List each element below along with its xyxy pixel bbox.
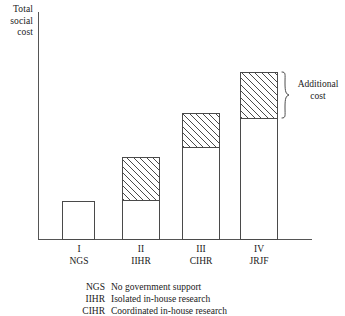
additional-cost-brace-icon — [281, 71, 290, 119]
x-tick-abbr-iii: CIHR — [175, 256, 227, 268]
bar-category-i — [62, 201, 95, 240]
legend-key-iihr: IIHR — [64, 294, 111, 306]
x-tick-roman-ii: II — [115, 244, 167, 256]
bar-category-iv — [240, 72, 278, 240]
x-tick-abbr-i: NGS — [53, 256, 105, 268]
bar-category-iii — [182, 113, 220, 240]
y-axis-label-line-2: social — [0, 16, 33, 28]
x-tick-label-ii: II IIHR — [115, 244, 167, 267]
bar-iii-additional-segment — [182, 113, 220, 148]
legend: NGS No government support IIHR Isolated … — [64, 282, 227, 316]
y-axis-label-line-1: Total — [0, 4, 33, 16]
additional-cost-annotation: Additional cost — [292, 79, 344, 102]
legend-row-ngs: NGS No government support — [64, 282, 227, 294]
bar-i-base-segment — [62, 201, 95, 240]
additional-cost-annotation-line-2: cost — [292, 91, 344, 103]
y-axis-label-line-3: cost — [0, 27, 33, 39]
additional-cost-annotation-line-1: Additional — [292, 79, 344, 91]
legend-key-cihr: CIHR — [64, 306, 111, 316]
x-tick-label-i: I NGS — [53, 244, 105, 267]
bar-ii-base-segment — [122, 200, 160, 240]
x-tick-roman-i: I — [53, 244, 105, 256]
y-axis-line — [38, 12, 39, 240]
bar-iii-base-segment — [182, 147, 220, 240]
legend-desc-ngs: No government support — [111, 282, 201, 294]
x-tick-abbr-ii: IIHR — [115, 256, 167, 268]
legend-row-iihr: IIHR Isolated in-house research — [64, 294, 227, 306]
x-tick-roman-iv: IV — [233, 244, 285, 256]
legend-desc-cihr: Coordinated in-house research — [111, 306, 227, 316]
x-tick-abbr-iv: JRJF — [233, 256, 285, 268]
legend-desc-iihr: Isolated in-house research — [111, 294, 210, 306]
social-cost-bar-chart: Total social cost Additional cost I NGS — [0, 0, 345, 316]
x-tick-roman-iii: III — [175, 244, 227, 256]
legend-row-cihr: CIHR Coordinated in-house research — [64, 306, 227, 316]
bar-iv-additional-segment — [240, 72, 278, 119]
legend-key-ngs: NGS — [64, 282, 111, 294]
y-axis-label: Total social cost — [0, 4, 33, 39]
bar-category-ii — [122, 157, 160, 240]
x-tick-label-iv: IV JRJF — [233, 244, 285, 267]
bar-iv-base-segment — [240, 118, 278, 240]
x-tick-label-iii: III CIHR — [175, 244, 227, 267]
bar-ii-additional-segment — [122, 157, 160, 201]
